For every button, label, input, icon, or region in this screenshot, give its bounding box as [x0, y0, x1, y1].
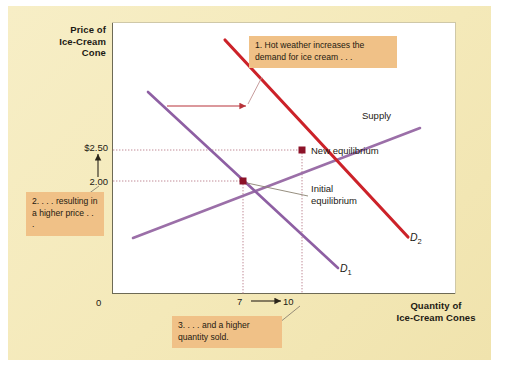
y-tick-label-200: 2.00 [56, 176, 108, 187]
figure-container: Price of Ice-Cream Cone Quantity of Ice-… [0, 0, 506, 366]
demand-d2-letter: D [410, 231, 418, 243]
y-axis-title-line-3: Cone [28, 47, 106, 59]
plot-panel-top-edge [112, 22, 456, 23]
supply-curve-label: Supply [362, 110, 391, 121]
initial-equilibrium-label-line-1: Initial [311, 183, 385, 195]
demand-d1-letter: D [340, 262, 348, 274]
demand-curve-d1-label: D1 [340, 262, 352, 277]
callout-higher-quantity: 3. . . . and a higher quantity sold. [172, 316, 282, 348]
x-axis-title: Quantity of Ice-Cream Cones [386, 300, 486, 323]
callout-demand-increase: 1. Hot weather increases the demand for … [249, 36, 397, 68]
initial-equilibrium-label-line-2: equilibrium [311, 195, 385, 207]
new-equilibrium-label: New equilibrium [311, 145, 379, 156]
y-axis-title: Price of Ice-Cream Cone [28, 24, 106, 59]
x-tick-label-10: 10 [283, 296, 301, 307]
initial-equilibrium-label: Initial equilibrium [311, 183, 385, 207]
y-tick-label-250: $2.50 [56, 142, 108, 153]
demand-d2-subscript: 2 [418, 237, 422, 246]
plot-panel-right-edge [455, 22, 456, 294]
demand-d1-subscript: 1 [348, 268, 352, 277]
origin-label: 0 [96, 297, 110, 308]
callout-higher-price: 2. . . . resulting in a higher price . .… [26, 192, 104, 236]
demand-curve-d2-label: D2 [410, 231, 422, 246]
x-axis-title-line-2: Ice-Cream Cones [386, 312, 486, 324]
x-axis-title-line-1: Quantity of [386, 300, 486, 312]
y-axis-title-line-1: Price of [28, 24, 106, 36]
x-tick-label-7: 7 [237, 296, 251, 307]
y-axis-title-line-2: Ice-Cream [28, 36, 106, 48]
